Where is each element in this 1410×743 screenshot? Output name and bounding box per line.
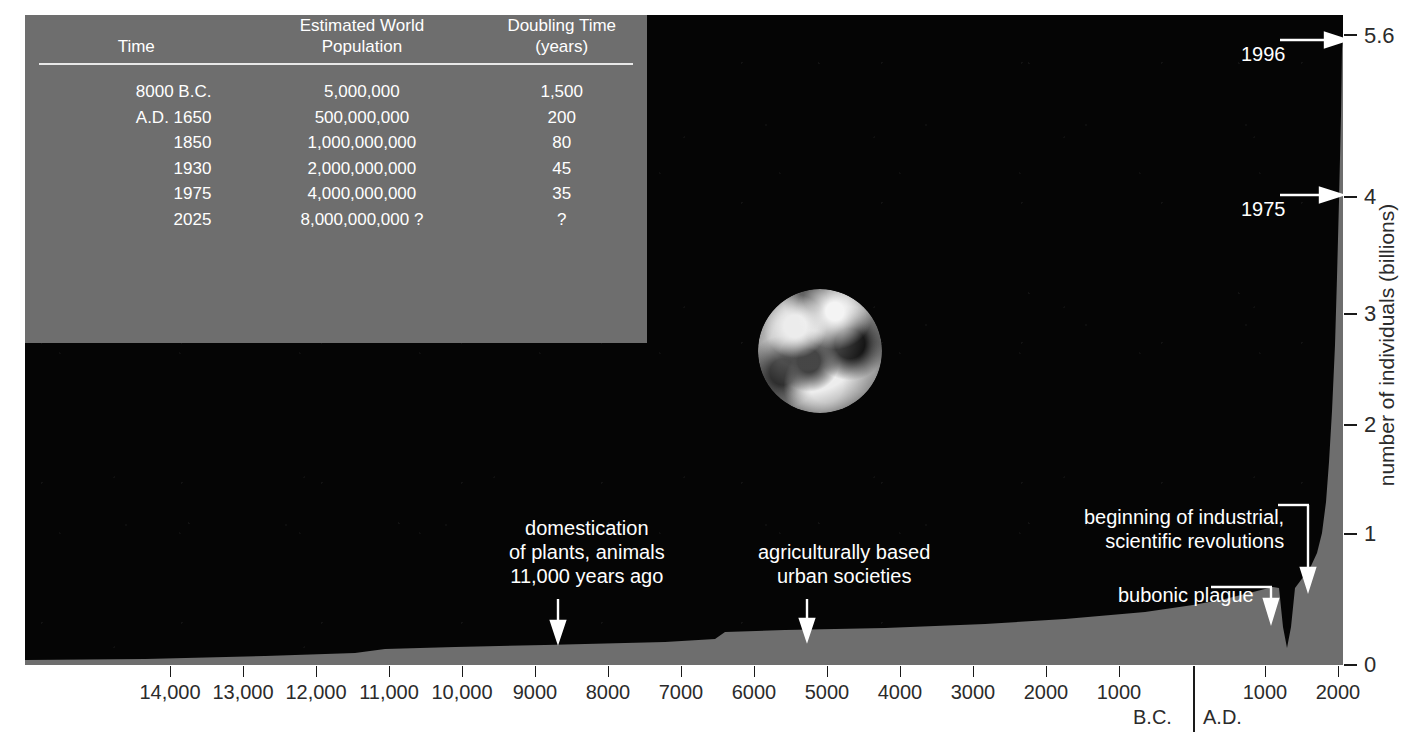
x-tick-4000bc: [900, 666, 901, 677]
y-tick-3: [1344, 313, 1357, 315]
x-tick-label-14000bc: 14,000: [139, 681, 200, 704]
y-tick-1: [1344, 533, 1357, 535]
y-tick-4: [1344, 196, 1357, 198]
x-tick-9000bc: [535, 666, 536, 677]
y-tick-label-1: 1: [1364, 521, 1376, 547]
x-tick-1000ad: [1265, 666, 1266, 677]
x-tick-label-5000bc: 5000: [805, 681, 850, 704]
x-tick-5000bc: [827, 666, 828, 677]
x-tick-label-4000bc: 4000: [878, 681, 923, 704]
x-tick-label-11000bc: 11,000: [359, 681, 419, 704]
arrowhead-urban: [800, 619, 814, 640]
x-tick-label-2000bc: 2000: [1024, 681, 1069, 704]
arrowhead-plague: [1264, 599, 1278, 622]
x-tick-label-9000bc: 9000: [513, 681, 558, 704]
x-tick-11000bc: [389, 666, 390, 677]
x-tick-8000bc: [608, 666, 609, 677]
plot-area: Time Estimated World Population Doubling…: [25, 15, 1343, 665]
x-tick-1000bc: [1119, 666, 1120, 677]
x-tick-label-6000bc: 6000: [732, 681, 777, 704]
x-tick-13000bc: [243, 666, 244, 677]
x-tick-3000bc: [973, 666, 974, 677]
x-tick-label-1000bc: 1000: [1097, 681, 1142, 704]
y-tick-2: [1344, 424, 1357, 426]
x-tick-label-13000bc: 13,000: [212, 681, 273, 704]
x-tick-label-2000ad: 2000: [1316, 681, 1361, 704]
y-tick-label-5.6: 5.6: [1364, 23, 1395, 49]
x-tick-label-12000bc: 12,000: [285, 681, 346, 704]
x-tick-12000bc: [316, 666, 317, 677]
arrowhead-industrial: [1301, 568, 1315, 590]
x-tick-label-8000bc: 8000: [586, 681, 631, 704]
x-tick-label-7000bc: 7000: [659, 681, 704, 704]
arrowhead-1996: [1325, 33, 1343, 47]
x-tick-2000ad: [1338, 666, 1339, 677]
x-tick-label-10000bc: 10,000: [431, 681, 492, 704]
y-tick-0: [1344, 664, 1357, 666]
era-label-ad: A.D.: [1203, 706, 1242, 729]
x-tick-6000bc: [754, 666, 755, 677]
x-tick-10000bc: [462, 666, 463, 677]
annotation-leaders: [25, 15, 1343, 665]
population-growth-figure: Time Estimated World Population Doubling…: [0, 0, 1410, 743]
x-tick-label-3000bc: 3000: [951, 681, 996, 704]
arrowhead-1975: [1320, 188, 1342, 202]
x-tick-2000bc: [1046, 666, 1047, 677]
era-label-bc: B.C.: [1133, 706, 1172, 729]
x-tick-7000bc: [681, 666, 682, 677]
y-axis-title: number of individuals (billions): [1375, 204, 1399, 486]
x-tick-label-1000ad: 1000: [1243, 681, 1288, 704]
arrowhead-domestication: [551, 621, 565, 642]
y-tick-5.6: [1344, 34, 1357, 36]
era-divider: [1193, 666, 1195, 732]
y-tick-label-0: 0: [1364, 652, 1376, 678]
x-tick-14000bc: [170, 666, 171, 677]
